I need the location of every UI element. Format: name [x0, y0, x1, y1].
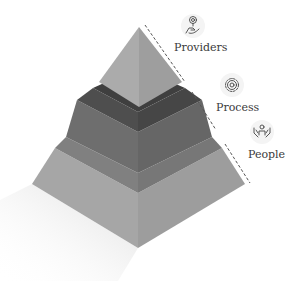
process-label: Process [216, 101, 260, 114]
process-icon-bg [220, 73, 244, 97]
providers-item: Providers [174, 14, 228, 54]
people-label: People [248, 148, 285, 161]
process-item: Process [216, 73, 260, 114]
pyramid-diagram: Providers Process People [0, 0, 290, 281]
people-item: People [248, 120, 285, 161]
providers-label: Providers [174, 41, 228, 54]
